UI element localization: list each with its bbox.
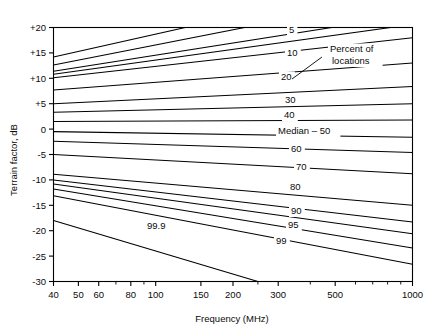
x-tick-label: 100	[148, 289, 164, 300]
y-tick-label: -25	[32, 251, 46, 262]
y-tick-label: +15	[30, 47, 46, 58]
terrain-factor-chart: 405060801001502003005001000 +20+15+10+50…	[0, 0, 435, 332]
curve-label-80: 80	[290, 181, 301, 192]
chart-canvas: 405060801001502003005001000 +20+15+10+50…	[0, 0, 435, 332]
curve-label-99.9: 99.9	[147, 220, 166, 231]
curve-80	[54, 155, 413, 174]
annotation-text: Percent of	[330, 43, 374, 54]
curve-label-30: 30	[285, 94, 296, 105]
x-tick-label: 1000	[402, 289, 423, 300]
y-tick-label: 0	[41, 124, 46, 135]
y-axis-title: Terrain factor, dB	[8, 124, 19, 196]
x-tick-label: 150	[193, 289, 209, 300]
curve-97	[54, 184, 413, 234]
y-tick-label: +10	[30, 73, 46, 84]
curve-label-99: 99	[276, 235, 287, 246]
y-tick-label: -30	[32, 276, 46, 287]
x-axis-title: Frequency (MHz)	[195, 313, 268, 324]
y-axis: +20+15+10+50-5-10-15-20-25-30	[30, 22, 54, 287]
curve-label-50: Median – 50	[278, 125, 330, 136]
annotation-leader-line	[292, 57, 322, 79]
curve-label-10: 10	[287, 47, 298, 58]
y-tick-label: -15	[32, 200, 46, 211]
curve-40	[54, 104, 413, 113]
curve-99	[54, 196, 413, 265]
y-tick-label: +20	[30, 22, 46, 33]
curve-label-95: 95	[288, 219, 299, 230]
curve-label-5: 5	[289, 24, 294, 35]
x-tick-label: 60	[93, 289, 104, 300]
annotation-text: locations	[332, 55, 370, 66]
curve-label-90: 90	[291, 205, 302, 216]
y-tick-label: -20	[32, 225, 46, 236]
y-tick-label: -5	[38, 149, 46, 160]
x-tick-label: 40	[48, 289, 59, 300]
curve-60	[54, 132, 413, 138]
curve-label-20: 20	[281, 71, 292, 82]
x-tick-label: 80	[126, 289, 137, 300]
x-tick-label: 200	[225, 289, 241, 300]
curve-label-40: 40	[284, 109, 295, 120]
x-axis: 405060801001502003005001000	[48, 282, 423, 300]
curve-70	[54, 141, 413, 152]
curve-label-60: 60	[291, 143, 302, 154]
x-tick-label: 50	[73, 289, 84, 300]
x-tick-label: 300	[270, 289, 286, 300]
annotations-layer: Percent oflocations	[292, 43, 386, 79]
y-tick-label: +5	[35, 98, 46, 109]
y-tick-label: -10	[32, 174, 46, 185]
curve-50	[54, 120, 413, 122]
curve-98	[54, 189, 413, 248]
curve-30	[54, 86, 413, 103]
curve-label-70: 70	[296, 161, 307, 172]
x-tick-label: 500	[327, 289, 343, 300]
